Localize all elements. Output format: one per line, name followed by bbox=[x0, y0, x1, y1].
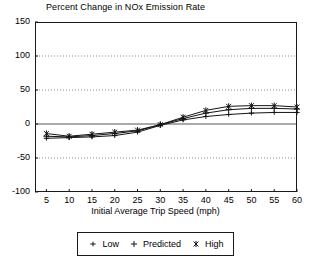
x-tick-label: 30 bbox=[149, 195, 171, 205]
x-tick-label: 55 bbox=[263, 195, 285, 205]
chart-figure: Percent Change in NOx Emission Rate 1501… bbox=[0, 0, 311, 268]
legend-item-high[interactable]: High bbox=[190, 238, 224, 250]
y-tick-label: 100 bbox=[0, 50, 30, 60]
y-tick-label: 0 bbox=[0, 118, 30, 128]
plot-area bbox=[35, 22, 297, 192]
chart-legend: LowPredictedHigh bbox=[77, 232, 234, 256]
y-tick-label: -100 bbox=[0, 186, 30, 196]
x-tick-label: 45 bbox=[218, 195, 240, 205]
x-tick-label: 40 bbox=[195, 195, 217, 205]
x-tick-label: 25 bbox=[127, 195, 149, 205]
x-tick-label: 60 bbox=[286, 195, 308, 205]
x-tick-label: 20 bbox=[104, 195, 126, 205]
y-tick-label: 150 bbox=[0, 16, 30, 26]
x-tick-label: 35 bbox=[172, 195, 194, 205]
x-tick-label: 50 bbox=[240, 195, 262, 205]
legend-item-predicted[interactable]: Predicted bbox=[128, 238, 181, 250]
plus-marker-icon bbox=[128, 238, 140, 250]
asterisk-marker-icon bbox=[190, 238, 202, 250]
legend-item-low[interactable]: Low bbox=[87, 238, 119, 250]
x-tick-label: 10 bbox=[58, 195, 80, 205]
x-axis-title: Initial Average Trip Speed (mph) bbox=[0, 206, 311, 216]
plus-small-marker-icon bbox=[87, 238, 99, 250]
x-tick-label: 15 bbox=[81, 195, 103, 205]
x-tick-label: 5 bbox=[35, 195, 57, 205]
chart-title: Percent Change in NOx Emission Rate bbox=[46, 2, 205, 12]
legend-item-label: High bbox=[205, 239, 224, 249]
y-tick-label: -50 bbox=[0, 152, 30, 162]
legend-item-label: Predicted bbox=[143, 239, 181, 249]
y-tick-label: 50 bbox=[0, 84, 30, 94]
legend-item-label: Low bbox=[102, 239, 119, 249]
